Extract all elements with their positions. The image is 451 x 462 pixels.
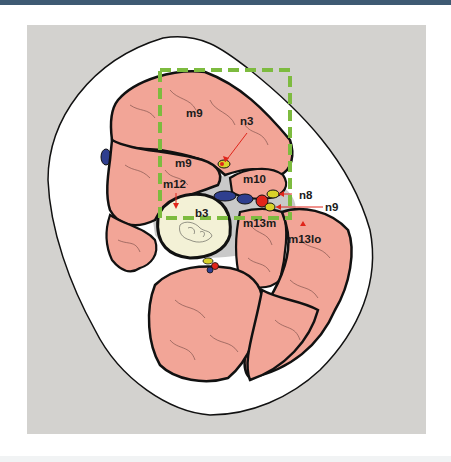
cross-section-figure [0, 0, 451, 462]
label-m9-upper: m9 [186, 108, 203, 120]
label-m13m: m13m [243, 218, 276, 230]
label-n8: n8 [299, 190, 312, 202]
label-m13lo: m13lo [288, 234, 321, 246]
vein-large-2 [237, 194, 253, 204]
label-n3: n3 [240, 116, 253, 128]
vein-large-1 [214, 191, 236, 201]
nerve-n9 [265, 203, 275, 211]
label-b3: b3 [195, 208, 208, 220]
label-n9: n9 [325, 202, 338, 214]
n3-artery-dot [220, 162, 224, 166]
lower-vein [207, 267, 213, 273]
nerve-n8 [267, 190, 279, 198]
label-m10: m10 [243, 174, 266, 186]
bone-b3 [158, 194, 231, 258]
footer-bar [0, 456, 451, 462]
lower-nerve [203, 258, 213, 264]
label-m9-lower: m9 [175, 158, 192, 170]
label-m12: m12 [163, 179, 186, 191]
